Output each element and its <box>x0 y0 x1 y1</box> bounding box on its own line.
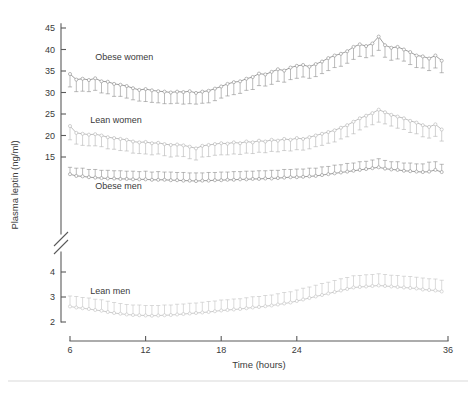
data-point <box>409 170 412 173</box>
data-point <box>194 311 197 314</box>
y-tick-label-45: 45 <box>45 23 55 33</box>
data-point <box>125 138 128 141</box>
data-point <box>144 140 147 143</box>
data-point <box>257 177 260 180</box>
data-point <box>157 178 160 181</box>
data-point <box>276 139 279 142</box>
data-point <box>352 45 355 48</box>
data-point <box>131 313 134 316</box>
data-point <box>163 178 166 181</box>
data-point <box>119 312 122 315</box>
data-point <box>283 176 286 179</box>
leptin-chart: 15202530354045234612182436 Time (hours)P… <box>0 0 476 394</box>
data-point <box>409 51 412 54</box>
data-point <box>207 89 210 92</box>
data-point <box>320 293 323 296</box>
data-point <box>440 171 443 174</box>
data-point <box>264 140 267 143</box>
series-label-obese-women: Obese women <box>95 52 153 62</box>
data-point <box>106 136 109 139</box>
data-point <box>365 167 368 170</box>
data-point <box>131 87 134 90</box>
data-point <box>295 64 298 67</box>
data-point <box>346 170 349 173</box>
data-point <box>226 308 229 311</box>
data-point <box>220 179 223 182</box>
data-point <box>94 308 97 311</box>
data-point <box>440 59 443 62</box>
data-point <box>320 60 323 63</box>
data-point <box>87 176 90 179</box>
data-point <box>257 72 260 75</box>
data-point <box>402 169 405 172</box>
data-point <box>421 124 424 127</box>
data-point <box>365 114 368 117</box>
data-point <box>390 113 393 116</box>
data-point <box>333 290 336 293</box>
data-point <box>106 80 109 83</box>
data-point <box>327 131 330 134</box>
data-point <box>358 168 361 171</box>
data-point <box>100 309 103 312</box>
data-point <box>201 311 204 314</box>
data-point <box>239 178 242 181</box>
data-point <box>289 66 292 69</box>
data-point <box>333 54 336 57</box>
data-point <box>239 80 242 83</box>
data-point <box>194 180 197 183</box>
data-point <box>428 125 431 128</box>
data-point <box>440 290 443 293</box>
data-point <box>308 175 311 178</box>
data-point <box>440 128 443 131</box>
data-point <box>131 140 134 143</box>
data-point <box>251 177 254 180</box>
figure-container: 15202530354045234612182436 Time (hours)P… <box>0 0 476 394</box>
data-point <box>138 88 141 91</box>
data-point <box>396 168 399 171</box>
data-point <box>289 138 292 141</box>
series-label-lean-women: Lean women <box>90 115 142 125</box>
data-point <box>383 111 386 114</box>
data-point <box>333 129 336 132</box>
data-point <box>201 90 204 93</box>
data-point <box>188 312 191 315</box>
data-point <box>308 65 311 68</box>
data-point <box>383 284 386 287</box>
data-point <box>169 179 172 182</box>
data-point <box>94 77 97 80</box>
data-point <box>339 171 342 174</box>
data-point <box>428 170 431 173</box>
data-point <box>68 72 71 75</box>
data-point <box>113 137 116 140</box>
x-axis-title: Time (hours) <box>232 359 286 370</box>
data-point <box>434 123 437 126</box>
data-point <box>295 299 298 302</box>
data-point <box>106 310 109 313</box>
data-point <box>421 171 424 174</box>
y-tick-label-25: 25 <box>45 109 55 119</box>
data-point <box>75 131 78 134</box>
data-point <box>390 46 393 49</box>
data-point <box>371 167 374 170</box>
data-point <box>264 177 267 180</box>
data-point <box>283 302 286 305</box>
data-point <box>75 174 78 177</box>
data-point <box>213 179 216 182</box>
data-point <box>188 90 191 93</box>
data-point <box>245 307 248 310</box>
data-point <box>264 73 267 76</box>
data-point <box>327 292 330 295</box>
data-point <box>176 179 179 182</box>
data-point <box>434 54 437 57</box>
data-point <box>157 314 160 317</box>
data-point <box>188 145 191 148</box>
y-tick-label-35: 35 <box>45 66 55 76</box>
data-point <box>434 168 437 171</box>
data-point <box>283 137 286 140</box>
data-point <box>270 304 273 307</box>
data-point <box>220 142 223 145</box>
data-point <box>68 173 71 176</box>
data-point <box>327 57 330 60</box>
data-point <box>339 52 342 55</box>
y-tick-label-30: 30 <box>45 88 55 98</box>
